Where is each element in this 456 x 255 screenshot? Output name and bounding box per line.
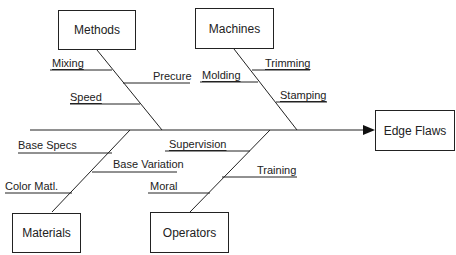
category-box-machines: Machines: [195, 8, 274, 49]
cause-label-precure: Precure: [153, 70, 192, 82]
cause-label-training: Training: [257, 164, 296, 176]
cause-label-mixing: Mixing: [52, 57, 84, 69]
category-box-methods: Methods: [58, 10, 136, 50]
category-label: Materials: [22, 226, 71, 240]
category-box-materials: Materials: [12, 213, 81, 253]
cause-label-base-specs: Base Specs: [18, 139, 77, 151]
effect-label: Edge Flaws: [384, 124, 447, 138]
cause-label-supervision: Supervision: [169, 138, 226, 150]
cause-label-moral: Moral: [150, 180, 178, 192]
cause-label-stamping: Stamping: [280, 89, 326, 101]
cause-label-base-variation: Base Variation: [113, 158, 184, 170]
category-box-operators: Operators: [150, 212, 229, 253]
cause-label-speed: Speed: [70, 91, 102, 103]
cause-label-color-matl: Color Matl.: [5, 180, 58, 192]
cause-label-molding: Molding: [202, 69, 241, 81]
cause-label-trimming: Trimming: [265, 57, 310, 69]
category-label: Operators: [163, 226, 216, 240]
category-label: Methods: [74, 23, 120, 37]
category-label: Machines: [209, 22, 260, 36]
effect-box: Edge Flaws: [375, 110, 455, 151]
